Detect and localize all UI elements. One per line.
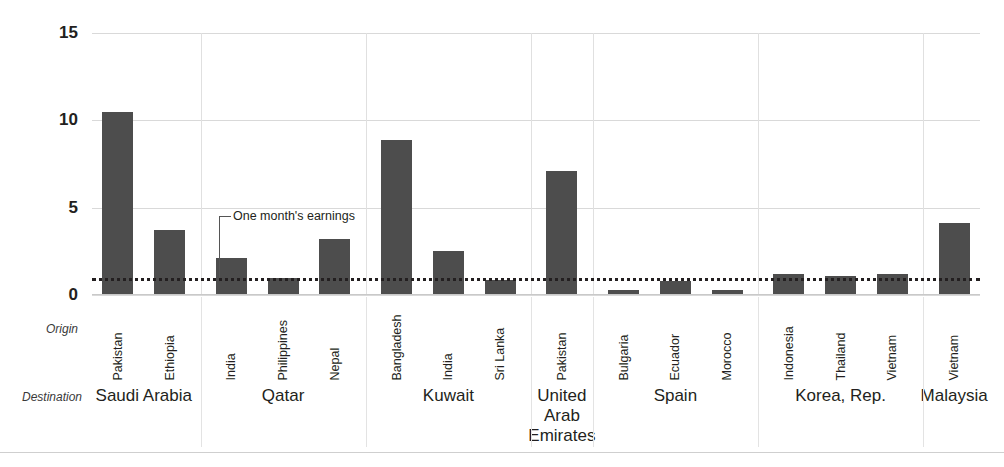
group-separator [593, 297, 594, 447]
y-axis-ticks: 051015 [0, 33, 78, 295]
plot-area [92, 33, 980, 295]
group-separator [758, 297, 759, 447]
origin-label: Thailand [834, 332, 847, 380]
destination-group-cell: United Arab Emirates [536, 382, 588, 450]
group-separator [923, 33, 924, 295]
destination-label: Malaysia [921, 386, 988, 406]
group-separator [531, 33, 532, 295]
destination-group-cell: Malaysia [928, 382, 980, 450]
y-tick-label: 15 [59, 23, 78, 43]
destination-axis-caption: Destination [22, 390, 82, 404]
y-tick-label: 5 [69, 198, 78, 218]
group-separator [201, 297, 202, 447]
bar [381, 140, 412, 295]
group-separator [923, 297, 924, 447]
bar-chart: 051015 One month's earnings Origin Pakis… [0, 0, 1004, 467]
group-separator [366, 297, 367, 447]
origin-label: Vietnam [948, 334, 961, 380]
destination-label: United Arab Emirates [528, 386, 595, 446]
destination-label: Korea, Rep. [795, 386, 886, 406]
group-separator [531, 297, 532, 447]
reference-line [92, 278, 980, 281]
origin-label: Morocco [721, 332, 734, 380]
destination-label-band: Saudi ArabiaQatarKuwaitUnited Arab Emira… [92, 382, 980, 450]
group-separator [593, 33, 594, 295]
destination-label: Saudi Arabia [96, 386, 192, 406]
origin-label: India [225, 353, 238, 380]
destination-group-cell: Kuwait [371, 382, 526, 450]
bottom-rule [0, 452, 1004, 453]
bar [939, 223, 970, 295]
destination-label: Qatar [262, 386, 305, 406]
origin-label: Sri Lanka [494, 327, 507, 380]
bar [546, 171, 577, 295]
gridline-15 [92, 33, 980, 34]
bar [154, 230, 185, 295]
reference-line-annotation: One month's earnings [233, 209, 355, 223]
destination-group-cell: Qatar [206, 382, 361, 450]
origin-label: Indonesia [782, 326, 795, 380]
origin-label: Ethiopia [163, 335, 176, 380]
origin-label: Pakistan [555, 332, 568, 380]
bar [102, 112, 133, 295]
group-separator [201, 33, 202, 295]
origin-label: Nepal [328, 347, 341, 380]
annotation-leader-horizontal [219, 216, 231, 217]
destination-group-cell: Korea, Rep. [763, 382, 918, 450]
origin-label-band: PakistanEthiopiaIndiaPhilippinesNepalBan… [92, 297, 980, 380]
destination-group-cell: Spain [598, 382, 753, 450]
y-tick-label: 0 [69, 285, 78, 305]
origin-label: Ecuador [669, 333, 682, 380]
origin-label: Bulgaria [617, 334, 630, 380]
origin-label: Philippines [277, 320, 290, 380]
origin-label: Pakistan [111, 332, 124, 380]
group-separator [758, 33, 759, 295]
gridline-0 [92, 295, 980, 296]
y-tick-label: 10 [59, 110, 78, 130]
bar [485, 280, 516, 295]
origin-label: Vietnam [886, 334, 899, 380]
destination-label: Kuwait [423, 386, 474, 406]
group-separator [366, 33, 367, 295]
bar [433, 251, 464, 295]
origin-label: India [442, 353, 455, 380]
bar [660, 281, 691, 295]
origin-label: Bangladesh [390, 314, 403, 380]
destination-label: Spain [654, 386, 697, 406]
x-axis-baseline [92, 294, 980, 295]
bar [319, 239, 350, 295]
origin-axis-caption: Origin [46, 322, 78, 336]
destination-group-cell: Saudi Arabia [92, 382, 196, 450]
annotation-leader-vertical [219, 216, 220, 278]
gridline-5 [92, 208, 980, 209]
gridline-10 [92, 120, 980, 121]
